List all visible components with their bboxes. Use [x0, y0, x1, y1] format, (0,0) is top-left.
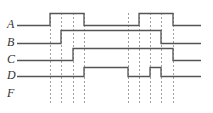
- signal-label-d: D: [7, 69, 16, 81]
- signal-label-c: C: [7, 53, 15, 65]
- waveform-d: [17, 68, 201, 77]
- waveform-c: [17, 49, 201, 61]
- waveforms: [0, 0, 213, 113]
- signal-label-f: F: [7, 87, 14, 99]
- timing-diagram: ABCDF: [0, 0, 213, 113]
- signal-label-a: A: [7, 18, 14, 30]
- waveform-a: [17, 14, 201, 26]
- signal-label-b: B: [7, 36, 14, 48]
